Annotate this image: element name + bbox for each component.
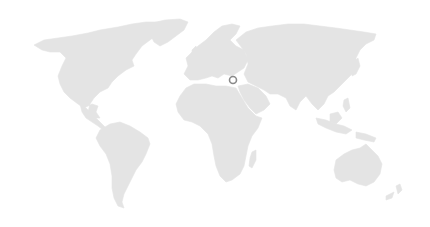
- madagascar: [249, 150, 256, 168]
- philippines: [343, 98, 350, 112]
- greenland: [148, 19, 188, 46]
- north-america: [34, 22, 170, 118]
- location-marker-icon[interactable]: [230, 77, 237, 84]
- borneo: [330, 112, 342, 124]
- new-zealand: [386, 184, 402, 200]
- world-map: [0, 0, 430, 227]
- south-america: [96, 122, 150, 208]
- australia: [334, 144, 382, 186]
- new-guinea: [356, 132, 376, 142]
